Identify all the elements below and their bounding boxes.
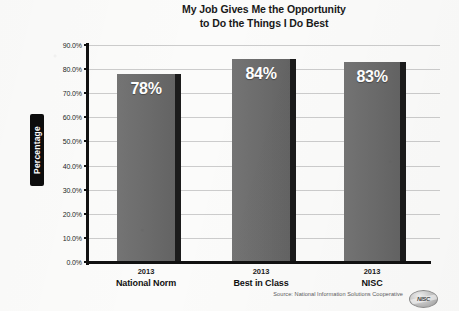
y-axis-tick-label: 80.0% — [63, 66, 82, 73]
bar-value-label: 84% — [232, 65, 290, 83]
chart-title: My Job Gives Me the Opportunity to Do th… — [88, 2, 440, 30]
y-axis-title-label: Percentage — [32, 126, 42, 174]
bar-fill — [117, 74, 175, 262]
x-axis-category-label: 2013Best in Class — [201, 267, 321, 289]
x-axis-category-label: 2013NISC — [312, 267, 432, 289]
y-axis-tick-label: 0.0% — [66, 259, 82, 266]
category-name: National Norm — [86, 277, 206, 289]
category-year: 2013 — [86, 267, 206, 277]
y-axis-title: Percentage — [30, 114, 44, 186]
y-axis-tick-label: 10.0% — [63, 234, 82, 241]
bar: 83% — [344, 62, 400, 262]
y-axis-tick-label: 90.0% — [63, 42, 82, 49]
nisc-logo-icon: NISC — [409, 290, 438, 308]
plot-area: 90.0%80.0%70.0%60.0%50.0%40.0%30.0%20.0%… — [88, 45, 440, 262]
bar-value-label: 78% — [117, 80, 175, 98]
y-axis-tick-label: 30.0% — [63, 186, 82, 193]
bar-fill — [344, 62, 400, 262]
y-axis-tick-label: 50.0% — [63, 138, 82, 145]
x-axis-line — [86, 261, 431, 264]
category-year: 2013 — [312, 267, 432, 277]
source-note: Source: National Information Solutions C… — [258, 291, 403, 297]
bar: 78% — [117, 74, 175, 262]
y-axis-tick-label: 40.0% — [63, 162, 82, 169]
bar-chart: My Job Gives Me the Opportunity to Do th… — [0, 0, 459, 311]
category-year: 2013 — [201, 267, 321, 277]
y-axis-tick-label: 70.0% — [63, 90, 82, 97]
category-name: NISC — [312, 277, 432, 289]
y-axis-line — [86, 43, 89, 265]
y-axis-tick-label: 60.0% — [63, 114, 82, 121]
x-axis-category-label: 2013National Norm — [86, 267, 206, 289]
y-axis-tick-label: 20.0% — [63, 210, 82, 217]
bar-value-label: 83% — [344, 68, 400, 86]
gridline — [88, 45, 440, 46]
bar-fill — [232, 59, 290, 262]
chart-title-line-1: My Job Gives Me the Opportunity — [88, 2, 440, 16]
bar-shadow — [400, 62, 406, 262]
bar: 84% — [232, 59, 290, 262]
bar-shadow — [290, 59, 296, 262]
logo-text: NISC — [417, 296, 430, 302]
chart-title-line-2: to Do the Things I Do Best — [88, 16, 440, 30]
category-name: Best in Class — [201, 277, 321, 289]
bar-shadow — [175, 74, 181, 262]
